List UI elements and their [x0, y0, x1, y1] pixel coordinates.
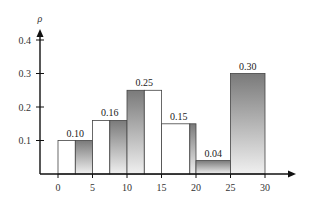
histogram-bar-segment	[110, 120, 127, 174]
x-axis-arrow-icon	[288, 171, 296, 178]
y-tick-label: 0.1	[19, 135, 32, 146]
y-tick-label: 0.4	[19, 35, 32, 46]
bar-value-label: 0.16	[101, 107, 119, 118]
x-tick-label: 5	[90, 182, 95, 193]
y-axis-arrow-icon	[37, 29, 44, 37]
histogram-bar-segment	[190, 124, 196, 174]
y-axis-title: ρ	[37, 13, 43, 24]
x-tick-label: 25	[226, 182, 236, 193]
y-tick-label: 0.2	[19, 102, 32, 113]
histogram-bar-segment	[162, 124, 190, 174]
histogram-bar-segment	[58, 141, 75, 175]
histogram-chart: 0.100.160.250.150.040.300.10.20.30.40510…	[0, 0, 309, 203]
bar-value-label: 0.15	[170, 111, 188, 122]
x-tick-label: 10	[122, 182, 132, 193]
x-tick-label: 20	[191, 182, 201, 193]
bar-value-label: 0.25	[136, 77, 154, 88]
histogram-bar-segment	[231, 74, 266, 175]
histogram-bar-segment	[196, 161, 231, 174]
bar-value-label: 0.10	[67, 128, 85, 139]
histogram-bar-segment	[127, 90, 144, 174]
bar-value-label: 0.04	[205, 148, 223, 159]
x-tick-label: 0	[56, 182, 61, 193]
histogram-bar-segment	[93, 120, 110, 174]
histogram-bar-segment	[144, 90, 161, 174]
y-tick-label: 0.3	[19, 68, 32, 79]
bar-value-label: 0.30	[239, 61, 257, 72]
x-tick-label: 15	[157, 182, 167, 193]
bars-group	[58, 74, 265, 175]
histogram-bar-segment	[75, 141, 92, 175]
x-tick-label: 30	[260, 182, 270, 193]
